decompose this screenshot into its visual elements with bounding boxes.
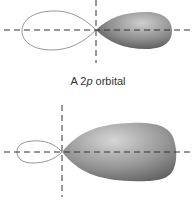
orbital-diagram xyxy=(0,0,196,211)
figure-2p-orbital xyxy=(4,0,190,63)
figure-caption: A 2p orbital xyxy=(0,75,196,87)
figure-hybrid-orbital xyxy=(4,105,192,197)
caption-suffix: orbital xyxy=(93,75,126,87)
caption-prefix: A 2 xyxy=(70,75,86,87)
